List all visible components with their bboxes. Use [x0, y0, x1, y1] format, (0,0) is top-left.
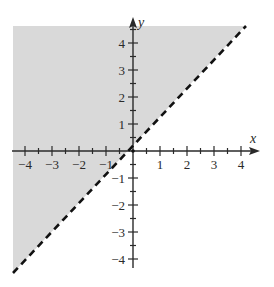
y-tick-label: 3	[119, 63, 126, 78]
x-tick-label: −4	[18, 157, 32, 172]
x-tick-label: −2	[72, 157, 86, 172]
origin-point	[131, 149, 135, 153]
x-tick-label: 2	[184, 157, 191, 172]
y-axis-label: y	[136, 15, 145, 30]
inequality-graph: x y −4−3−2−112344321−1−2−3−4	[0, 0, 274, 287]
x-axis-label: x	[249, 131, 257, 146]
y-tick-label: −2	[111, 198, 125, 213]
y-tick-label: 2	[119, 90, 126, 105]
x-tick-label: −3	[45, 157, 59, 172]
y-tick-label: −3	[111, 225, 125, 240]
x-tick-label: 3	[211, 157, 218, 172]
y-tick-label: −1	[111, 171, 125, 186]
x-tick-label: 4	[238, 157, 245, 172]
x-tick-label: 1	[157, 157, 164, 172]
y-tick-label: −4	[111, 252, 125, 267]
y-tick-label: 1	[119, 117, 126, 132]
y-tick-label: 4	[119, 36, 126, 51]
